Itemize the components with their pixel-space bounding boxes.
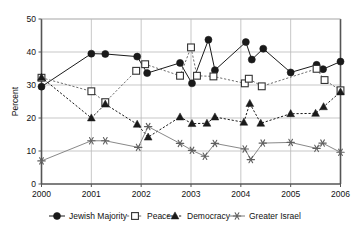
line-chart: 01020304050 2000200120022003200420052006… (0, 0, 351, 235)
legend-item-democracy[interactable]: Democracy (167, 211, 231, 221)
marker-filled-triangle (211, 113, 219, 120)
marker-filled-circle (88, 50, 95, 57)
legend-item-peace[interactable]: Peace (127, 211, 171, 221)
marker-filled-circle (248, 56, 255, 63)
marker-filled-triangle (246, 99, 254, 106)
legend-label: Jewish Majority (69, 211, 128, 221)
marker-asterisk (259, 140, 266, 146)
marker-filled-circle (260, 45, 267, 52)
marker-open-square (133, 67, 140, 74)
x-tick-label: 2005 (281, 189, 300, 199)
marker-asterisk (233, 213, 240, 219)
y-tick-label: 50 (27, 14, 37, 24)
y-axis-title: Percent (10, 86, 20, 116)
marker-asterisk (201, 153, 208, 159)
marker-asterisk (102, 138, 109, 144)
x-tick-label: 2004 (231, 189, 250, 199)
marker-asterisk (188, 147, 195, 153)
y-tick-label: 0 (31, 179, 36, 189)
marker-open-square (313, 65, 320, 72)
marker-open-square (188, 44, 195, 51)
marker-filled-circle (320, 66, 327, 73)
marker-filled-circle (337, 58, 344, 65)
marker-filled-circle (54, 213, 61, 220)
marker-filled-circle (287, 69, 294, 76)
marker-open-square (245, 75, 252, 82)
x-tick-label: 2003 (182, 189, 201, 199)
chart-legend: Jewish MajorityPeaceDemocracyGreater Isr… (49, 211, 301, 221)
marker-filled-triangle (171, 212, 179, 219)
marker-open-square (177, 72, 184, 79)
marker-open-square (210, 73, 217, 80)
y-tick-label: 30 (27, 80, 37, 90)
marker-filled-circle (102, 50, 109, 57)
marker-filled-triangle (144, 133, 152, 140)
x-tick-label: 2006 (331, 189, 350, 199)
marker-open-square (258, 83, 265, 90)
marker-open-square (321, 77, 328, 84)
legend-label: Greater Israel (249, 211, 301, 221)
legend-item-greater-israel[interactable]: Greater Israel (229, 211, 301, 221)
marker-asterisk (144, 123, 151, 129)
x-tick-label: 2002 (132, 189, 151, 199)
y-axis-title-text: Percent (10, 86, 20, 116)
marker-filled-triangle (176, 113, 184, 120)
marker-filled-circle (144, 70, 151, 77)
y-tick-label: 40 (27, 47, 37, 57)
chart-container: 01020304050 2000200120022003200420052006… (0, 0, 351, 235)
y-axis-ticks: 01020304050 (27, 14, 42, 189)
marker-filled-triangle (287, 110, 295, 117)
marker-filled-triangle (133, 120, 141, 127)
marker-filled-circle (188, 80, 195, 87)
legend-label: Democracy (187, 211, 231, 221)
marker-open-square (132, 213, 139, 220)
marker-open-square (194, 72, 201, 79)
legend-item-jewish-majority[interactable]: Jewish Majority (49, 211, 128, 221)
marker-filled-circle (134, 53, 141, 60)
marker-filled-circle (205, 36, 212, 43)
marker-open-square (88, 88, 95, 95)
x-axis-ticks: 2000200120022003200420052006 (32, 184, 350, 199)
y-tick-label: 10 (27, 146, 37, 156)
x-tick-label: 2001 (82, 189, 101, 199)
marker-asterisk (134, 144, 141, 150)
y-tick-label: 20 (27, 113, 37, 123)
marker-filled-triangle (188, 120, 196, 127)
marker-asterisk (211, 140, 218, 146)
marker-filled-circle (177, 59, 184, 66)
marker-open-square (142, 61, 149, 68)
marker-asterisk (176, 140, 183, 146)
marker-filled-triangle (203, 119, 211, 126)
x-tick-label: 2000 (32, 189, 51, 199)
marker-filled-circle (242, 39, 249, 46)
marker-filled-triangle (312, 109, 320, 116)
marker-asterisk (247, 156, 254, 162)
marker-filled-circle (38, 83, 45, 90)
